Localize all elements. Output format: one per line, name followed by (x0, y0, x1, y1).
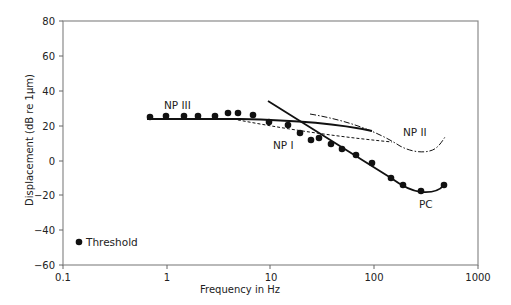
y-tick-label: 40 (42, 86, 55, 97)
y-tick-label: 80 (42, 16, 55, 27)
pc-curve (268, 101, 444, 192)
legend-label: Threshold (85, 236, 138, 248)
y-tick-label: 0 (49, 156, 55, 167)
plot-frame (63, 21, 478, 265)
y-tick-label: 60 (42, 51, 55, 62)
threshold-points (147, 110, 448, 195)
x-tick-label: 1000 (465, 272, 490, 283)
np3-curve (147, 119, 372, 131)
x-tick-label: 100 (364, 272, 383, 283)
y-tick-label: −40 (34, 225, 55, 236)
np3-label: NP III (164, 99, 191, 111)
threshold-marker-icon (76, 239, 83, 246)
chart: 80 60 40 20 0 −20 −40 −60 0.1 1 10 100 1… (0, 0, 511, 305)
x-axis-title: Frequency in Hz (200, 284, 280, 295)
x-tick-label: 1 (164, 272, 170, 283)
pc-label: PC (419, 198, 433, 210)
x-tick-label: 10 (265, 272, 278, 283)
x-axis (63, 265, 478, 269)
np2-label: NP II (403, 126, 427, 138)
np1-label: NP I (273, 139, 294, 151)
y-axis-title: Displacement (dB re 1µm) (24, 74, 35, 206)
y-tick-label: −60 (34, 260, 55, 271)
x-tick-label: 0.1 (55, 272, 71, 283)
legend: Threshold (76, 236, 138, 248)
y-tick-label: −20 (34, 190, 55, 201)
y-tick-label: 20 (42, 121, 55, 132)
